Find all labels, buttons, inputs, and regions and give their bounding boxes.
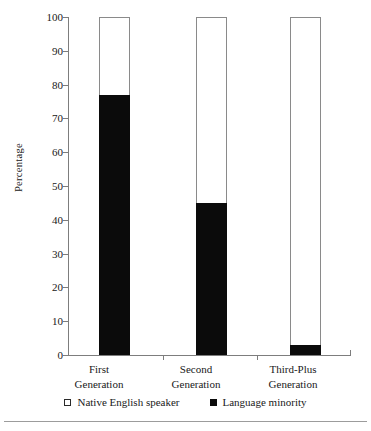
x-axis-start-tick bbox=[68, 350, 69, 356]
legend-label-native-english-speaker: Native English speaker bbox=[77, 396, 179, 408]
legend-filled-square-icon bbox=[210, 399, 217, 406]
y-tick-label-0: 0 bbox=[58, 347, 64, 363]
bar-segment-language-minority[interactable] bbox=[290, 345, 321, 355]
bar-segment-language-minority[interactable] bbox=[99, 95, 130, 355]
legend-item-native-english-speaker[interactable]: Native English speaker bbox=[64, 396, 179, 408]
y-tick-label-20: 20 bbox=[52, 279, 63, 295]
x-category-label-second-generation: Second Generation bbox=[151, 362, 241, 392]
bar-segment-native-english-speaker[interactable] bbox=[290, 17, 321, 355]
legend-item-language-minority[interactable]: Language minority bbox=[210, 396, 307, 408]
x-axis-end-tick bbox=[350, 350, 351, 356]
x-category-label-third-plus-generation: Third-Plus Generation bbox=[245, 362, 341, 392]
y-axis-title: Percentage bbox=[13, 118, 24, 218]
y-tick-label-40: 40 bbox=[52, 212, 63, 228]
legend-label-language-minority: Language minority bbox=[223, 396, 307, 408]
bar-group-first-generation[interactable] bbox=[99, 17, 130, 355]
y-tick-label-30: 30 bbox=[52, 246, 63, 262]
legend-open-square-icon bbox=[64, 399, 71, 406]
y-tick-label-100: 100 bbox=[47, 9, 64, 25]
chart-legend: Native English speaker Language minority bbox=[0, 396, 371, 408]
x-category-separator-2 bbox=[257, 355, 258, 360]
y-axis-line bbox=[68, 17, 69, 355]
y-tick-label-10: 10 bbox=[52, 313, 63, 329]
y-tick-label-70: 70 bbox=[52, 110, 63, 126]
y-tick-label-50: 50 bbox=[52, 178, 63, 194]
chart-container: Percentage 100 90 80 70 60 50 40 30 20 1… bbox=[0, 0, 371, 431]
bar-group-second-generation[interactable] bbox=[196, 17, 227, 355]
y-tick-label-90: 90 bbox=[52, 43, 63, 59]
y-tick-label-80: 80 bbox=[52, 77, 63, 93]
bar-segment-language-minority[interactable] bbox=[196, 203, 227, 355]
y-tick-label-60: 60 bbox=[52, 144, 63, 160]
x-category-label-first-generation: First Generation bbox=[54, 362, 144, 392]
bar-group-third-plus-generation[interactable] bbox=[290, 17, 321, 355]
x-axis-line bbox=[68, 355, 351, 356]
bottom-divider bbox=[4, 421, 367, 422]
x-category-separator-1 bbox=[163, 355, 164, 360]
plot-area: 100 90 80 70 60 50 40 30 20 10 0 bbox=[68, 17, 350, 355]
